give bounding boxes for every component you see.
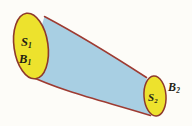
figure-container: S1 B1 S2 B2 bbox=[0, 0, 192, 126]
label-s2: S2 bbox=[148, 92, 158, 105]
label-s1: S1 bbox=[21, 36, 32, 50]
label-b1: B1 bbox=[19, 53, 31, 67]
label-b2: B2 bbox=[168, 81, 180, 95]
